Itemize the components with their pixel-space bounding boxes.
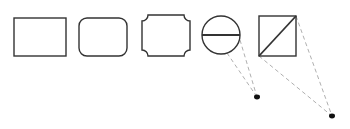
dashed-connector: [259, 56, 332, 116]
notched-rectangle-shape[interactable]: [142, 15, 190, 56]
anchor-point-dot[interactable]: [329, 114, 335, 119]
rounded-rectangle-shape[interactable]: [79, 18, 127, 56]
shape-group: [14, 15, 296, 56]
square-with-diagonal-shape[interactable]: [259, 16, 296, 56]
circle-with-horizontal-line-shape[interactable]: [202, 16, 240, 54]
anchor-group: [254, 95, 335, 119]
anchor-point-dot[interactable]: [254, 95, 260, 100]
connector-group: [227, 16, 332, 116]
dashed-connector: [240, 40, 257, 97]
dashed-connector: [227, 53, 257, 97]
rectangle-shape[interactable]: [14, 18, 66, 56]
diagram-canvas: [0, 0, 350, 129]
